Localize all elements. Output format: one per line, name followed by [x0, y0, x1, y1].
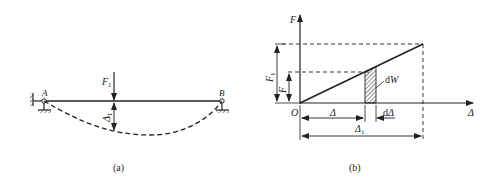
label-f1: F1 — [264, 72, 277, 83]
label-force: F1 — [101, 76, 112, 89]
panel-b-force-displacement-graph: F Δ O dW F1 F Δ dΔ — [264, 14, 474, 174]
work-diagram-figure: A B F1 Δ1 (a) F Δ O — [0, 0, 497, 188]
label-support-b: B — [219, 88, 225, 98]
label-dw: dW — [385, 74, 400, 85]
work-element-strip — [365, 67, 376, 103]
wall-support-icon — [30, 93, 42, 106]
caption-b: (b) — [349, 162, 361, 174]
deflection-curve — [44, 101, 222, 135]
label-delta: Δ — [329, 107, 336, 118]
label-f: F — [277, 86, 288, 94]
panel-a-beam-diagram: A B F1 Δ1 (a) — [30, 72, 229, 174]
label-delta1: Δ1 — [354, 123, 365, 136]
dw-leader — [376, 81, 384, 88]
caption-a: (a) — [113, 162, 124, 174]
label-x-axis: Δ — [467, 107, 474, 118]
load-line — [300, 44, 423, 103]
label-y-axis: F — [289, 14, 297, 25]
label-ddelta: dΔ — [383, 107, 394, 118]
label-origin: O — [291, 107, 298, 118]
label-deflection: Δ1 — [101, 112, 114, 123]
label-support-a: A — [41, 88, 48, 98]
